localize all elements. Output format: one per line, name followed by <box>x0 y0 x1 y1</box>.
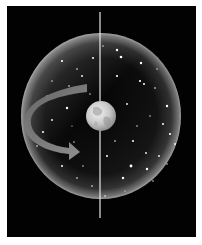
celestial-sphere-illustration <box>7 6 196 237</box>
celestial-sphere-figure <box>7 6 196 237</box>
earth <box>86 101 116 131</box>
